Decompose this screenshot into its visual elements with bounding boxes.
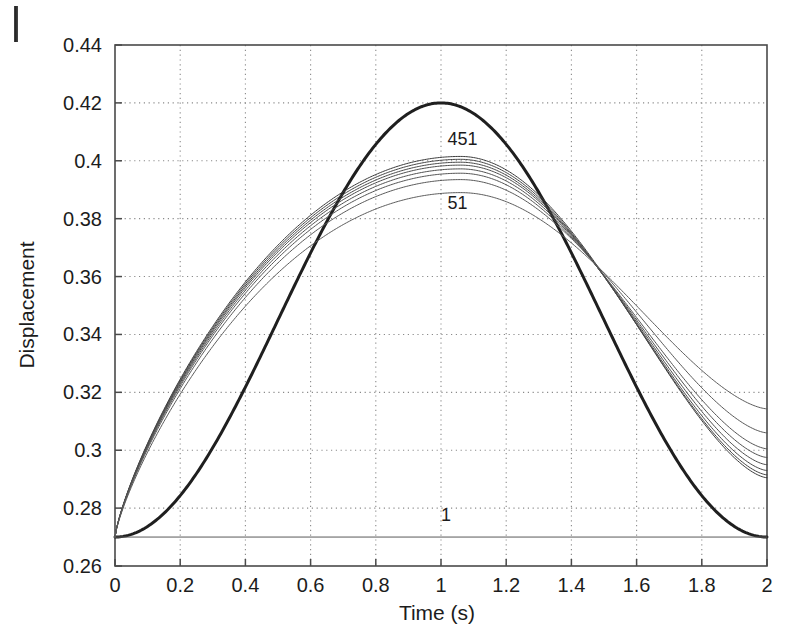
y-axis-title: Displacement: [15, 241, 38, 368]
x-tick-label: 2: [761, 574, 772, 596]
x-tick-label: 0.8: [362, 574, 390, 596]
curve-label-1: 1: [441, 505, 451, 525]
x-tick-label: 0: [109, 574, 120, 596]
x-tick-labels: 00.20.40.60.811.21.41.61.82: [109, 574, 772, 596]
y-tick-label: 0.34: [63, 323, 102, 345]
y-tick-labels: 0.260.280.30.320.340.360.380.40.420.44: [63, 34, 102, 577]
y-tick-label: 0.44: [63, 34, 102, 56]
x-axis-title: Time (s): [399, 601, 475, 624]
curve-exact: [115, 103, 767, 537]
axis-ticks: [115, 45, 767, 566]
scan-artifact-mark: [14, 6, 18, 42]
y-tick-label: 0.3: [74, 439, 102, 461]
x-tick-label: 0.6: [297, 574, 325, 596]
y-tick-label: 0.32: [63, 381, 102, 403]
y-tick-label: 0.28: [63, 497, 102, 519]
y-tick-label: 0.36: [63, 266, 102, 288]
x-tick-label: 1.6: [623, 574, 651, 596]
axes-frame: [115, 45, 767, 566]
data-curves: [115, 103, 767, 537]
y-tick-label: 0.26: [63, 555, 102, 577]
grid-lines: [115, 45, 767, 566]
curve-label-51: 51: [448, 193, 468, 213]
y-tick-label: 0.4: [74, 150, 102, 172]
y-tick-label: 0.38: [63, 208, 102, 230]
displacement-vs-time-chart: 00.20.40.60.811.21.41.61.82 0.260.280.30…: [0, 0, 799, 638]
x-tick-label: 1.8: [688, 574, 716, 596]
x-tick-label: 1: [435, 574, 446, 596]
plot-frame: [115, 45, 767, 566]
curve-label-451: 451: [448, 129, 478, 149]
x-tick-label: 1.4: [557, 574, 585, 596]
x-tick-label: 0.4: [231, 574, 259, 596]
curve-annotations: 451511: [441, 129, 478, 525]
x-tick-label: 1.2: [492, 574, 520, 596]
y-tick-label: 0.42: [63, 92, 102, 114]
x-tick-label: 0.2: [166, 574, 194, 596]
figure-container: 00.20.40.60.811.21.41.61.82 0.260.280.30…: [0, 0, 799, 638]
